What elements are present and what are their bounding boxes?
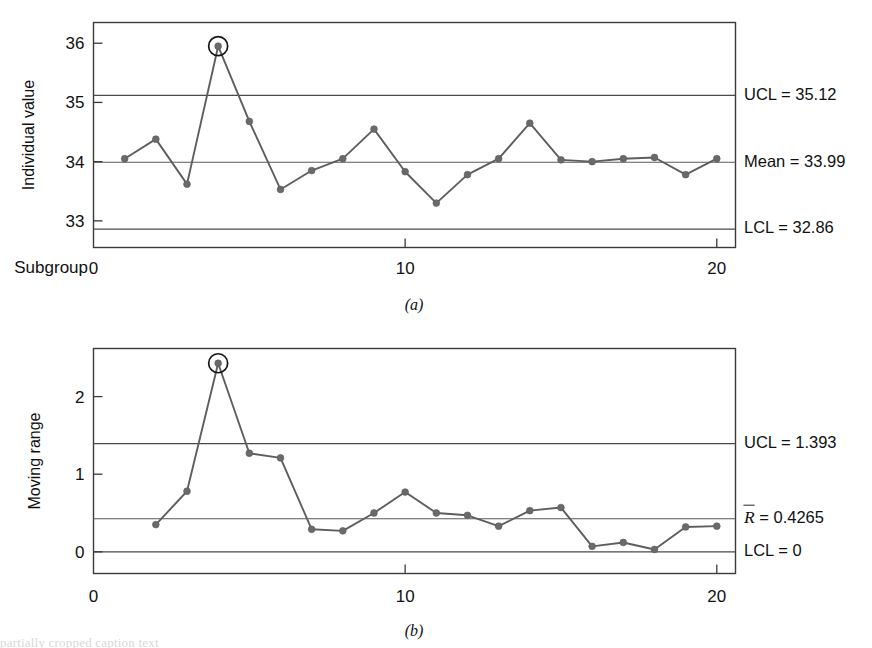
control-chart-figure: 33343536 01020 Individual value Subgroup… [0,0,872,648]
y-axis-ticks: 33343536 [66,34,103,231]
data-point [526,507,533,514]
data-point [620,155,627,162]
x-axis-title: Subgroup [14,258,88,277]
data-point [121,155,128,162]
data-point [526,120,533,127]
data-point [558,504,565,511]
data-point [651,546,658,553]
data-point [152,521,159,528]
plot-frame [94,23,736,248]
data-point [682,524,689,531]
lcl-label: LCL = 0 [744,541,802,559]
r-bar-symbol: R [743,507,755,527]
x-tick-label: 10 [396,587,415,606]
data-point [277,186,284,193]
x-tick-label: 20 [707,587,726,606]
data-point [495,523,502,530]
y-tick-label: 33 [66,212,85,231]
data-point [464,171,471,178]
r-bar-value: = 0.4265 [755,508,824,526]
y-tick-label: 2 [75,388,84,407]
lcl-label: LCL = 32.86 [744,218,834,236]
y-tick-label: 1 [75,465,84,484]
y-tick-label: 34 [66,153,85,172]
data-point [246,118,253,125]
panel-caption-a: (a) [405,296,424,314]
data-point-markers [152,360,720,553]
cropped-footer-text: partially cropped caption text [0,638,872,648]
data-series-line [156,363,717,549]
data-point [308,526,315,533]
individuals-chart-svg: 33343536 01020 Individual value Subgroup… [0,0,872,324]
x-tick-label: 0 [89,259,98,278]
data-point [589,543,596,550]
data-point [620,539,627,546]
y-tick-label: 0 [75,543,84,562]
x-tick-label: 10 [396,259,415,278]
data-point [713,155,720,162]
data-point [713,523,720,530]
data-point [184,181,191,188]
y-tick-label: 36 [66,34,85,53]
data-point [402,168,409,175]
data-point [215,43,222,50]
data-point [246,450,253,457]
moving-range-chart-panel: 012 01020 Moving range UCL = 1.393 R = 0… [0,324,872,648]
y-axis-ticks: 012 [75,388,102,562]
data-point [339,527,346,534]
data-point-markers [121,43,720,207]
center-line-label: Mean = 33.99 [744,152,845,170]
data-point [339,155,346,162]
y-axis-title: Individual value [20,80,37,190]
data-point [308,167,315,174]
x-axis-ticks: 01020 [89,565,726,606]
data-point [215,360,222,367]
center-line-label: R = 0.4265 [743,507,824,527]
x-axis-ticks: 01020 [89,239,726,278]
data-point [184,488,191,495]
ucl-label: UCL = 1.393 [744,433,837,451]
data-point [433,200,440,207]
x-tick-label: 0 [89,587,98,606]
data-series-line [125,46,717,203]
moving-range-chart-svg: 012 01020 Moving range UCL = 1.393 R = 0… [0,324,872,648]
data-point [433,510,440,517]
individuals-chart-panel: 33343536 01020 Individual value Subgroup… [0,0,872,324]
data-point [651,154,658,161]
ucl-label: UCL = 35.12 [744,85,837,103]
data-point [371,126,378,133]
y-tick-label: 35 [66,93,85,112]
y-axis-title: Moving range [26,412,43,509]
x-tick-label: 20 [707,259,726,278]
data-point [558,156,565,163]
footer-text: partially cropped caption text [0,638,872,648]
data-point [152,136,159,143]
data-point [402,489,409,496]
data-point [589,158,596,165]
data-point [495,155,502,162]
data-point [371,510,378,517]
data-point [464,512,471,519]
data-point [682,171,689,178]
plot-frame [94,349,736,574]
data-point [277,455,284,462]
